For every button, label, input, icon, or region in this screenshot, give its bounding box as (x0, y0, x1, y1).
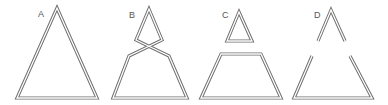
panel-label-a: A (38, 9, 44, 19)
split-open-shapes-d (294, 10, 372, 98)
closed-path-0-outer-stroke (17, 8, 97, 98)
topology-diagram: A B C D (0, 0, 388, 105)
panel-b: B (113, 9, 187, 98)
panel-label-c: C (222, 10, 229, 20)
panel-d: D (294, 10, 372, 98)
closed-path-1-inner-stroke (201, 54, 281, 98)
split-closed-shapes-c (201, 12, 281, 98)
closed-path-0-inner-stroke (113, 9, 187, 98)
closed-path-1-outer-stroke (201, 54, 281, 98)
closed-path-0-outer-stroke (227, 12, 252, 41)
panel-label-d: D (314, 10, 321, 20)
open-path-1-inner-stroke (294, 56, 372, 98)
panel-label-b: B (129, 10, 135, 20)
panel-a: A (17, 8, 97, 98)
closed-path-0-outer-stroke (113, 9, 187, 98)
closed-path-0-inner-stroke (17, 8, 97, 98)
crossed-loop-b (113, 9, 187, 98)
panel-c: C (201, 10, 281, 98)
closed-triangle-a (17, 8, 97, 98)
open-path-0-outer-stroke (318, 10, 345, 41)
